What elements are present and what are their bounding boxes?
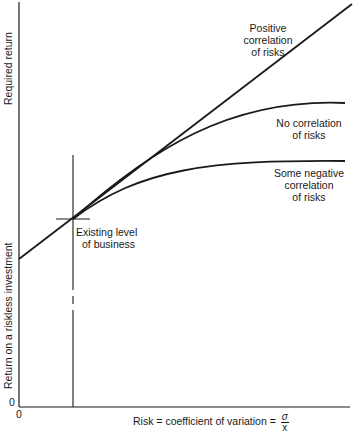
positive-label-line2: correlation — [228, 34, 308, 46]
fraction-denominator: x — [281, 423, 289, 432]
y-axis-label-required-return: Required return — [2, 32, 14, 105]
x-axis-label: Risk = coefficient of variation = σ x — [133, 412, 289, 432]
negative-label-line3: of risks — [264, 191, 354, 203]
negative-correlation-label: Some negative correlation of risks — [264, 167, 354, 203]
negative-label-line1: Some negative — [264, 167, 354, 179]
origin-y-label: 0 — [9, 396, 15, 408]
positive-correlation-label: Positive correlation of risks — [228, 22, 308, 58]
x-axis-label-text: Risk = coefficient of variation = — [133, 415, 276, 427]
positive-label-line1: Positive — [228, 22, 308, 34]
sigma-over-x-fraction: σ x — [281, 412, 289, 432]
existing-label-line2: of business — [76, 238, 137, 250]
chart-canvas — [0, 0, 355, 432]
existing-level-label: Existing level of business — [76, 226, 137, 250]
none-label-line1: No correlation — [264, 117, 354, 129]
no-correlation-label: No correlation of risks — [264, 117, 354, 141]
y-axis-label-riskless-return: Return on a riskless investment — [2, 243, 14, 389]
positive-label-line3: of risks — [228, 46, 308, 58]
origin-x-label: 0 — [16, 408, 22, 420]
existing-label-line1: Existing level — [76, 226, 137, 238]
none-label-line2: of risks — [264, 129, 354, 141]
negative-label-line2: correlation — [264, 179, 354, 191]
